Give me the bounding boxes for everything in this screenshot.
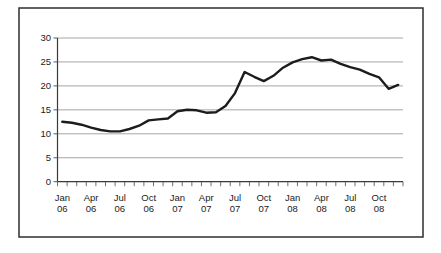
x-axis-label-year: 06 xyxy=(57,203,68,214)
x-axis-label-month: Jan xyxy=(170,192,185,203)
x-axis-label-year: 07 xyxy=(172,203,183,214)
y-axis-label: 5 xyxy=(46,152,51,163)
chart-screenshot: 051015202530Jan06Apr06Jul06Oct06Jan07Apr… xyxy=(0,0,441,253)
x-axis-label-month: Oct xyxy=(372,192,387,203)
y-axis-label: 10 xyxy=(40,128,51,139)
chart-frame-border xyxy=(19,8,423,237)
y-axis-label: 30 xyxy=(40,32,51,43)
x-axis-label-month: Apr xyxy=(199,192,214,203)
x-axis-label-month: Oct xyxy=(141,192,156,203)
y-axis-label: 25 xyxy=(40,56,51,67)
y-axis-label: 15 xyxy=(40,104,51,115)
line-chart: 051015202530Jan06Apr06Jul06Oct06Jan07Apr… xyxy=(0,0,441,253)
y-axis-label: 20 xyxy=(40,80,51,91)
x-axis-label-year: 07 xyxy=(230,203,241,214)
x-axis-label-year: 08 xyxy=(287,203,298,214)
x-axis-label-month: Jan xyxy=(55,192,70,203)
x-axis-label-year: 08 xyxy=(374,203,385,214)
x-axis-label-year: 07 xyxy=(259,203,270,214)
x-axis-label-month: Oct xyxy=(256,192,271,203)
x-axis-label-year: 08 xyxy=(345,203,356,214)
x-axis-label-month: Jul xyxy=(229,192,241,203)
x-axis-label-month: Jul xyxy=(344,192,356,203)
y-axis-label: 0 xyxy=(46,176,51,187)
x-axis-label-year: 07 xyxy=(201,203,212,214)
x-axis-label-year: 06 xyxy=(86,203,97,214)
x-axis-label-year: 08 xyxy=(316,203,327,214)
x-axis-label-year: 06 xyxy=(143,203,154,214)
x-axis-label-month: Apr xyxy=(84,192,99,203)
x-axis-label-month: Apr xyxy=(314,192,329,203)
x-axis-label-year: 06 xyxy=(115,203,126,214)
x-axis-label-month: Jan xyxy=(285,192,300,203)
x-axis-label-month: Jul xyxy=(114,192,126,203)
